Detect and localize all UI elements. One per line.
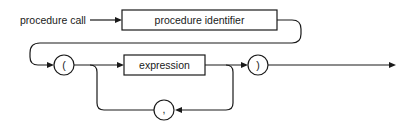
expression-label: expression [139,59,190,71]
syntax-diagram: procedure call procedure identifier ( ex… [0,0,416,128]
expression-node: expression [124,55,205,75]
comma-node: , [154,100,174,120]
arrow-to-procedure-identifier [90,17,122,23]
arrowhead-icon [115,17,122,23]
arrowhead-icon [389,62,396,68]
comma-label: , [163,103,166,115]
open-paren-label: ( [62,59,66,71]
close-paren-node: ) [248,55,268,75]
close-paren-label: ) [256,59,260,71]
diagram-title: procedure call [20,14,86,26]
procedure-identifier-label: procedure identifier [155,14,245,26]
arrowhead-icon [47,62,54,68]
open-paren-node: ( [54,55,74,75]
arrowhead-icon [175,107,182,113]
arrowhead-icon [241,62,248,68]
arrowhead-icon [117,62,124,68]
procedure-identifier-node: procedure identifier [122,10,277,30]
